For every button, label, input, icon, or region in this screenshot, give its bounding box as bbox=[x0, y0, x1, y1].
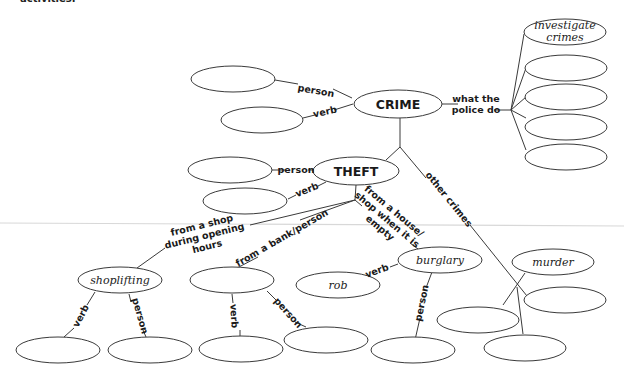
other-crime-4-field[interactable] bbox=[484, 335, 566, 361]
police-answer-2-field[interactable] bbox=[525, 55, 607, 81]
shoplifting-person-answer-field[interactable] bbox=[108, 337, 192, 363]
theft-verb-answer-field[interactable] bbox=[203, 188, 287, 214]
other-crime-3-field[interactable] bbox=[437, 307, 519, 333]
crime-person-answer-field[interactable] bbox=[191, 66, 275, 92]
burglary-person-answer-field[interactable] bbox=[371, 337, 455, 363]
house-edge-label: from a house/ shop when it is empty bbox=[346, 181, 430, 259]
crime-verb-answer-field[interactable] bbox=[221, 107, 303, 133]
bank-theft-answer-field[interactable] bbox=[190, 267, 274, 293]
bank-person-edge-label: person bbox=[272, 295, 305, 330]
bank-person-answer-field[interactable] bbox=[284, 327, 368, 353]
crime-node-label: CRIME bbox=[376, 97, 420, 112]
shoplifting-verb-answer-field[interactable] bbox=[16, 337, 100, 363]
burglary-answer: burglary bbox=[416, 254, 465, 267]
police-answer-4-field[interactable] bbox=[525, 114, 607, 140]
police-edge-label-line2: police do bbox=[452, 104, 501, 115]
bank-verb-edge-label: verb bbox=[228, 304, 241, 329]
bank-verb-answer-field[interactable] bbox=[199, 336, 283, 362]
police-answer-5-field[interactable] bbox=[525, 144, 607, 170]
bank-edge-label: from a bank/person bbox=[234, 206, 331, 268]
burglary-verb-answer: rob bbox=[329, 279, 348, 292]
other-crimes-edge-label: other crimes bbox=[424, 169, 475, 229]
theft-node-label: THEFT bbox=[334, 164, 379, 179]
police-answer-3-field[interactable] bbox=[525, 84, 607, 110]
shoplifting-person-edge-label: person bbox=[130, 297, 151, 336]
theft-person-answer-field[interactable] bbox=[188, 157, 272, 183]
police-edge-label-line1: what the bbox=[452, 93, 500, 104]
police-answer-1-line2: crimes bbox=[546, 31, 584, 44]
shop-edge-label: from a shop during opening hours bbox=[161, 210, 248, 262]
shoplifting-verb-edge-label: verb bbox=[70, 302, 91, 329]
crime-word-map: activities. bbox=[0, 0, 624, 383]
burglary-verb-edge-label: verb bbox=[364, 261, 391, 280]
other-crime-1-answer: murder bbox=[532, 256, 574, 269]
theft-verb-edge-label: verb bbox=[294, 180, 321, 199]
burglary-person-edge-label: person bbox=[412, 283, 430, 322]
other-crime-2-field[interactable] bbox=[524, 287, 606, 313]
crime-person-edge-label: person bbox=[297, 82, 335, 99]
shoplifting-answer: shoplifting bbox=[90, 274, 150, 287]
cutoff-heading: activities. bbox=[20, 0, 76, 4]
theft-person-edge-label: person bbox=[278, 164, 315, 175]
crime-verb-edge-label: verb bbox=[312, 104, 338, 120]
